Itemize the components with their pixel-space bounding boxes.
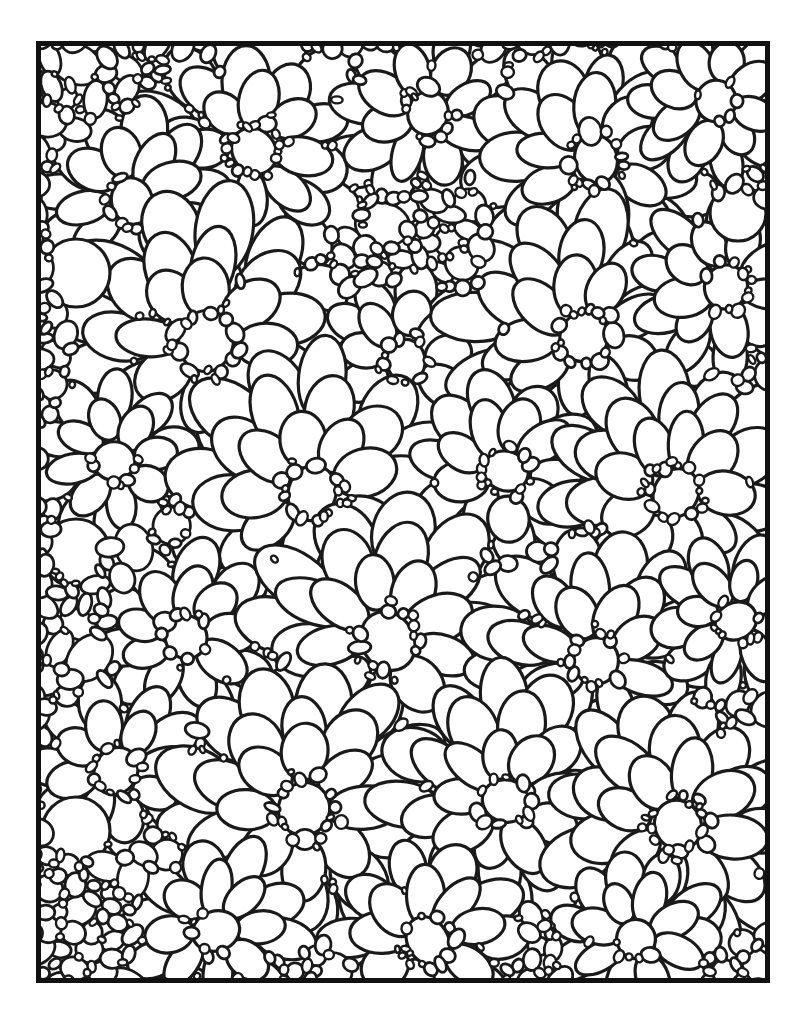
petal-shape [691, 698, 698, 705]
petal-shape [149, 308, 157, 317]
petal-shape [130, 357, 138, 365]
petal-shape [137, 936, 147, 945]
petal-shape [692, 212, 704, 227]
petal-shape [436, 282, 447, 292]
petal-shape [395, 945, 401, 953]
petal-shape [601, 48, 609, 56]
petal-shape [106, 182, 116, 192]
petal-shape [445, 252, 454, 262]
petal-shape [72, 581, 80, 587]
petal-shape [140, 810, 148, 819]
petal-shape [434, 131, 447, 143]
petal-shape [59, 365, 71, 378]
petal-shape [559, 156, 578, 175]
petal-shape [591, 621, 598, 628]
petal-shape [115, 849, 134, 866]
petal-shape [401, 379, 409, 387]
petal-shape [662, 844, 675, 856]
artboard [36, 41, 770, 983]
petal-shape [490, 202, 497, 209]
petal-shape [418, 960, 426, 968]
petal-shape [42, 94, 51, 107]
petal-shape [568, 529, 575, 538]
petal-shape [262, 170, 273, 181]
petal-shape [43, 655, 52, 666]
petal-shape [49, 696, 57, 703]
petal-shape [572, 134, 582, 145]
petal-shape [168, 561, 176, 567]
petal-shape [267, 651, 277, 660]
petal-shape [398, 952, 407, 960]
petal-shape [56, 933, 65, 941]
petal-shape [742, 165, 751, 172]
petal-shape [746, 344, 757, 352]
petal-shape [69, 381, 76, 389]
petal-shape [137, 763, 148, 772]
petal-shape [706, 701, 714, 709]
petal-shape [567, 644, 581, 657]
petal-shape [345, 626, 353, 634]
petal-shape [242, 166, 252, 177]
petal-shape [288, 458, 296, 464]
petal-shape [410, 190, 428, 202]
petal-shape [391, 676, 398, 684]
petal-shape [754, 867, 766, 880]
petal-shape [570, 892, 580, 903]
petal-shape [695, 90, 702, 99]
petal-shape [324, 950, 334, 959]
petal-shape [197, 907, 209, 919]
petal-shape [716, 728, 726, 739]
petal-shape [490, 774, 498, 786]
petal-shape [331, 96, 343, 103]
petal-shape [45, 254, 53, 262]
petal-shape [696, 503, 708, 513]
petal-shape [747, 276, 756, 285]
petal-shape [46, 148, 58, 163]
petal-shape [288, 769, 295, 775]
petal-shape [333, 485, 343, 496]
petal-shape [118, 959, 128, 966]
petal-shape [679, 790, 688, 801]
petal-shape [410, 631, 417, 640]
petal-shape [731, 374, 745, 387]
petal-shape [342, 499, 352, 508]
petal-shape [502, 774, 511, 781]
petal-shape [191, 375, 197, 383]
petal-shape [294, 268, 300, 277]
petal-shape [479, 453, 489, 467]
petal-shape [671, 856, 682, 865]
petal-shape [91, 74, 98, 81]
petal-shape [321, 875, 328, 884]
petal-shape [406, 949, 414, 956]
coloring-page [0, 0, 799, 1016]
petal-shape [618, 161, 630, 170]
petal-shape [320, 511, 328, 521]
petal-shape [629, 239, 638, 247]
petal-shape [161, 77, 172, 85]
petal-shape [267, 112, 276, 118]
petal-shape [169, 539, 181, 548]
petal-shape [148, 56, 155, 62]
petal-shape [746, 633, 754, 645]
petal-shape [647, 823, 656, 834]
petal-shape [199, 944, 209, 954]
petal-shape [115, 115, 123, 121]
petal-shape [104, 841, 111, 847]
petal-shape [88, 614, 100, 624]
petal-shape [514, 915, 522, 922]
petal-shape [154, 64, 171, 75]
petal-shape [501, 66, 514, 78]
petal-shape [488, 541, 494, 549]
petal-shape [581, 676, 589, 683]
petal-shape [83, 969, 91, 977]
petal-shape [164, 84, 171, 91]
petal-shape [359, 222, 367, 228]
petal-shape [526, 478, 535, 486]
petal-shape [464, 169, 476, 185]
petal-shape [731, 94, 743, 108]
petal-shape [700, 268, 712, 284]
petal-shape [615, 152, 628, 161]
petal-shape [380, 337, 397, 353]
petal-shape [489, 959, 499, 968]
petal-shape [178, 915, 190, 924]
